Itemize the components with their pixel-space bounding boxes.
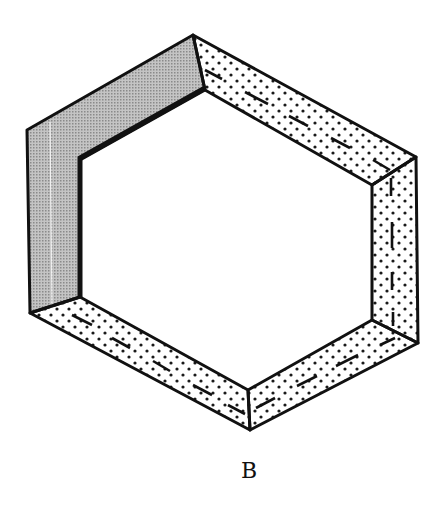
left-upper-wall [27, 35, 205, 313]
right-wall [372, 157, 418, 343]
bottom-left-wall [30, 297, 250, 430]
figure-label: B [0, 458, 446, 483]
top-right-wall [193, 35, 416, 185]
bottom-right-wall [248, 320, 418, 430]
hexagonal-frame-diagram [0, 0, 446, 526]
